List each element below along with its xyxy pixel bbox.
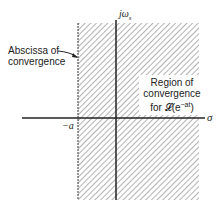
arrow-head [72, 53, 78, 58]
abscissa-point-label: −a [62, 120, 74, 131]
abscissa-annotation: Abscissa of convergence [8, 45, 65, 67]
horizontal-axis-label: σ [207, 112, 212, 123]
vertical-axis-label: jωs [119, 8, 132, 24]
region-label: Region of convergence for 𝓛(e−at) [143, 77, 201, 113]
